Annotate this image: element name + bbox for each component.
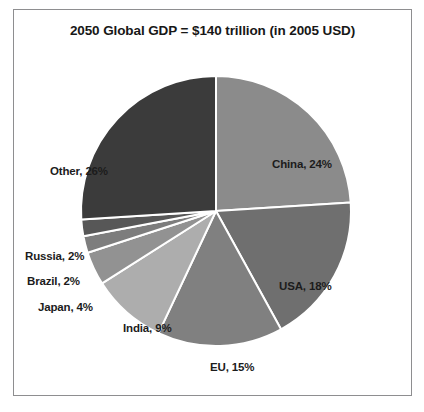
pie-slice-other[interactable] bbox=[81, 76, 216, 219]
pie-label-brazil: Brazil, 2% bbox=[27, 275, 80, 287]
pie-slice-china[interactable] bbox=[216, 76, 351, 211]
pie-label-other: Other, 26% bbox=[50, 165, 108, 177]
pie-label-usa: USA, 18% bbox=[279, 280, 332, 292]
pie-svg bbox=[14, 10, 413, 397]
pie-label-eu: EU, 15% bbox=[210, 361, 254, 373]
pie-slices bbox=[81, 76, 351, 346]
pie-label-india: India, 9% bbox=[123, 322, 172, 334]
pie-label-russia: Russia, 2% bbox=[25, 250, 84, 262]
chart-frame: 2050 Global GDP = $140 trillion (in 2005… bbox=[13, 9, 412, 396]
pie-chart: China, 24% USA, 18% EU, 15% India, 9% Ja… bbox=[14, 10, 413, 397]
pie-label-china: China, 24% bbox=[272, 158, 332, 170]
pie-label-japan: Japan, 4% bbox=[38, 301, 93, 313]
